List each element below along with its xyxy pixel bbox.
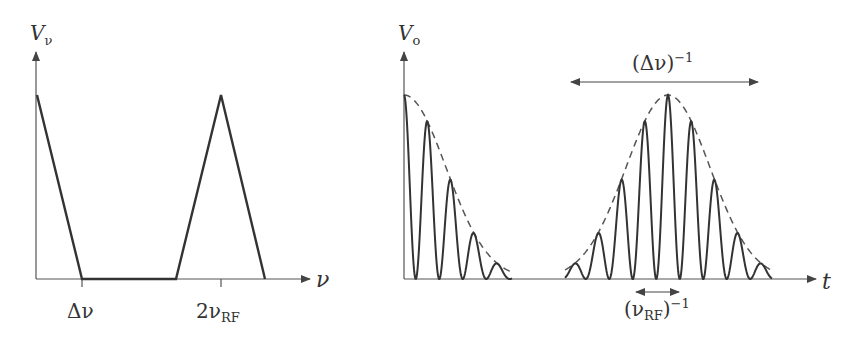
tick-label-delta-nu: Δν (67, 299, 94, 323)
oscillation-right (565, 95, 772, 279)
tick-label-2nu-rf: 2νRF (196, 299, 240, 325)
spectrum-curve (37, 95, 265, 279)
y-axis-label: Vo (398, 21, 420, 48)
y-axis-label: Vν (30, 21, 52, 48)
envelope-width-label: (Δν)−1 (632, 50, 693, 75)
x-axis-label: t (822, 269, 831, 294)
figure-canvas: Vν ν Δν 2νRF Vo t (Δν)−1 (νRF)−1 (0, 0, 856, 341)
oscillation-left (404, 95, 512, 279)
x-axis-label: ν (316, 267, 329, 292)
time-domain-panel: Vo t (Δν)−1 (νRF)−1 (398, 21, 831, 323)
carrier-period-label: (νRF)−1 (624, 296, 690, 323)
spectrum-panel: Vν ν Δν 2νRF (30, 21, 329, 325)
